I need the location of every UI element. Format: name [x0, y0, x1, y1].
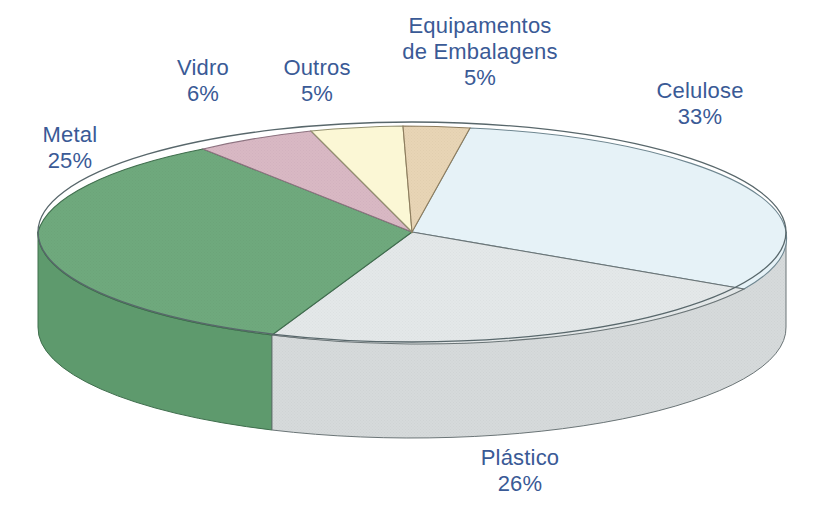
slice-label-equipamentos: Equipamentos de Embalagens 5% — [370, 13, 590, 91]
slice-label-equipamentos-name-line2: de Embalagens — [370, 39, 590, 65]
slice-label-metal-name: Metal — [0, 122, 140, 148]
slice-label-vidro-value: 6% — [148, 81, 258, 107]
slice-label-equipamentos-name-line1: Equipamentos — [370, 13, 590, 39]
slice-label-outros: Outros 5% — [262, 55, 372, 107]
slice-label-celulose-value: 33% — [620, 104, 780, 130]
slice-label-vidro: Vidro 6% — [148, 55, 258, 107]
slice-label-metal-value: 25% — [0, 148, 140, 174]
slice-label-plastico-name: Plástico — [440, 445, 600, 471]
slice-label-plastico: Plástico 26% — [440, 445, 600, 497]
slice-label-metal: Metal 25% — [0, 122, 140, 174]
slice-label-plastico-value: 26% — [440, 471, 600, 497]
pie-chart: Metal 25% Vidro 6% Outros 5% Equipamento… — [0, 0, 817, 517]
slice-label-vidro-name: Vidro — [148, 55, 258, 81]
slice-label-equipamentos-value: 5% — [370, 65, 590, 91]
pie-top-slices — [38, 122, 787, 344]
slice-label-celulose: Celulose 33% — [620, 78, 780, 130]
slice-label-outros-name: Outros — [262, 55, 372, 81]
slice-label-outros-value: 5% — [262, 81, 372, 107]
slice-label-celulose-name: Celulose — [620, 78, 780, 104]
